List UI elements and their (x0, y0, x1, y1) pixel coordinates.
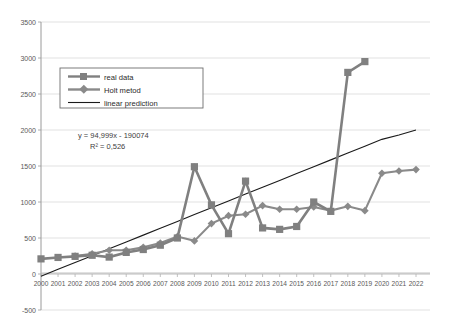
x-axis-tick-label: 2022 (409, 280, 424, 287)
x-axis-tick-label: 2016 (306, 280, 321, 287)
x-axis-tick-label: 2001 (51, 280, 66, 287)
data-point-marker-square (191, 163, 198, 170)
y-axis-tick-label: 3500 (20, 19, 36, 26)
chart-legend: real data Holt metod linear prediction (60, 68, 203, 108)
data-point-marker-diamond (395, 167, 403, 175)
y-axis-tick-label: 3000 (20, 55, 36, 62)
data-point-marker-square (344, 69, 351, 76)
data-point-marker-square (310, 198, 317, 205)
data-point-marker-square (140, 246, 147, 253)
series-linear-prediction (41, 130, 416, 276)
data-point-marker-diamond (293, 205, 301, 213)
x-axis-tick-label: 2019 (358, 280, 373, 287)
x-axis-tick-label: 2002 (68, 280, 83, 287)
data-point-marker-diamond (225, 212, 233, 220)
x-axis-tick-label: 2006 (136, 280, 151, 287)
x-axis-tick-label: 2014 (272, 280, 287, 287)
x-axis-tick-labels: 2000200120022003200420052006200720082009… (34, 280, 424, 287)
data-point-marker-square (361, 58, 368, 65)
data-point-marker-square (106, 253, 113, 260)
y-axis-tick-label: 1500 (20, 163, 36, 170)
y-axis-tick-label: 0 (32, 271, 36, 278)
data-point-marker-diamond (361, 207, 369, 215)
x-axis-tick-label: 2008 (170, 280, 185, 287)
data-point-marker-diamond (378, 169, 386, 177)
x-axis-tick-marks (41, 274, 416, 277)
data-point-marker-square (89, 252, 96, 259)
x-axis-tick-label: 2005 (119, 280, 134, 287)
y-axis-tick-label: -500 (22, 307, 36, 314)
legend-label-holt-method: Holt metod (104, 86, 141, 95)
x-axis-tick-label: 2004 (102, 280, 117, 287)
x-axis-tick-label: 2011 (221, 280, 236, 287)
data-point-marker-square (208, 201, 215, 208)
data-point-marker-square (37, 255, 44, 262)
y-axis-tick-label: 2500 (20, 91, 36, 98)
x-axis-tick-label: 2000 (34, 280, 49, 287)
y-axis-tick-label: 500 (24, 235, 36, 242)
data-point-marker-square (327, 208, 334, 215)
regression-equation-annotation: y = 94,999x - 190074 R² = 0,526 (78, 131, 149, 151)
x-axis-tick-label: 2013 (255, 280, 270, 287)
x-axis-tick-label: 2007 (153, 280, 168, 287)
data-point-marker-square (174, 234, 181, 241)
data-point-marker-diamond (344, 203, 352, 211)
equation-line: y = 94,999x - 190074 (78, 131, 149, 140)
data-point-marker-square (242, 178, 249, 185)
data-point-marker-diamond (242, 210, 250, 218)
data-point-marker-square (123, 249, 130, 256)
y-axis-tick-labels: 3500300025002000150010005000-500 (20, 19, 36, 314)
grid-lines (38, 22, 430, 310)
data-point-marker-square (293, 223, 300, 230)
line-chart: 3500300025002000150010005000-500 2000200… (0, 0, 450, 329)
data-point-marker-square (225, 230, 232, 237)
data-point-marker-square (71, 253, 78, 260)
legend-label-linear-prediction: linear prediction (104, 99, 158, 108)
data-point-marker-diamond (412, 166, 420, 174)
x-axis-tick-label: 2010 (204, 280, 219, 287)
x-axis-tick-label: 2020 (375, 280, 390, 287)
x-axis-tick-label: 2018 (340, 280, 355, 287)
data-point-marker-square (276, 226, 283, 233)
data-point-marker-diamond (259, 202, 267, 210)
legend-marker-square (80, 73, 87, 80)
chart-container: 3500300025002000150010005000-500 2000200… (0, 0, 450, 329)
x-axis-tick-label: 2003 (85, 280, 100, 287)
y-axis-tick-label: 1000 (20, 199, 36, 206)
legend-label-real-data: real data (104, 73, 134, 82)
data-point-marker-square (54, 254, 61, 261)
x-axis-tick-label: 2012 (238, 280, 253, 287)
data-point-marker-diamond (276, 205, 284, 213)
x-axis-tick-label: 2015 (289, 280, 304, 287)
y-axis-tick-label: 2000 (20, 127, 36, 134)
x-axis-tick-label: 2009 (187, 280, 202, 287)
r-squared-line: R² = 0,526 (90, 142, 125, 151)
x-axis-tick-label: 2017 (323, 280, 338, 287)
data-point-marker-square (259, 224, 266, 231)
data-point-marker-square (157, 242, 164, 249)
x-axis-tick-label: 2021 (392, 280, 407, 287)
